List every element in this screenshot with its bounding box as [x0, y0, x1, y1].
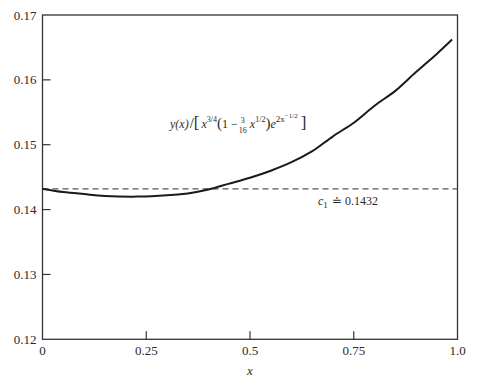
y-tick-label: 0.14 [14, 202, 37, 217]
y-tick-label: 0.13 [14, 267, 37, 282]
y-axis-ticks: 0.120.130.140.150.160.17 [14, 8, 51, 347]
x-tick-label: 0 [39, 343, 46, 358]
y-tick-label: 0.15 [14, 137, 37, 152]
chart: 0.120.130.140.150.160.17 00.250.50.751.0… [0, 0, 477, 385]
x-tick-label: 1.0 [449, 343, 465, 358]
normalized-solution-curve [43, 40, 453, 197]
y-tick-label: 0.12 [14, 332, 37, 347]
x-axis-ticks: 00.250.50.751.0 [39, 331, 465, 358]
y-tick-label: 0.17 [14, 8, 37, 23]
x-tick-label: 0.5 [242, 343, 258, 358]
y-tick-label: 0.16 [14, 72, 37, 87]
x-axis-title: x [246, 363, 253, 378]
x-tick-label: 0.25 [135, 343, 158, 358]
x-tick-label: 0.75 [342, 343, 365, 358]
c1-label: c1≐0.1432 [318, 194, 378, 210]
curve-label-formula: y(x)/[x3/4(1 − 316x1/2)e2x−1/2] [169, 112, 306, 135]
